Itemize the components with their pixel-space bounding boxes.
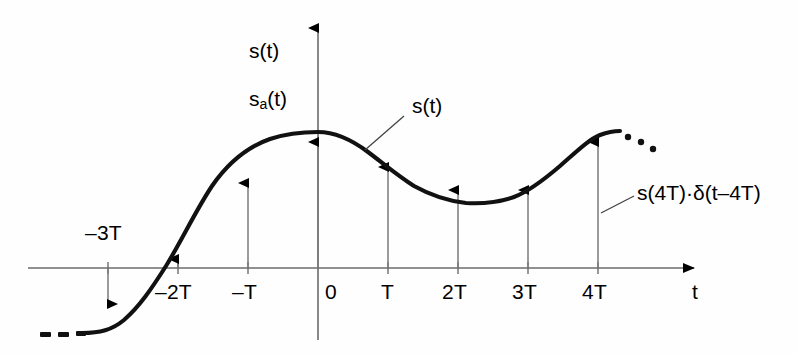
- sampling-figure: s(t) sa(t) s(t) s(4T)·δ(t–4T) –3T –2T –T…: [0, 0, 798, 354]
- left-ellipsis-dots: [40, 331, 86, 337]
- y-axis-label-secondary-base: s: [249, 87, 260, 110]
- impulse-annotation-label: s(4T)·δ(t–4T): [637, 182, 761, 203]
- y-axis-label-primary: s(t): [249, 40, 279, 61]
- y-axis-label-secondary-tail: (t): [267, 87, 287, 110]
- tick-label--2T: –2T: [155, 281, 192, 302]
- annotation-leaders: [365, 116, 634, 213]
- x-axis-label: t: [692, 281, 698, 302]
- tick-label-0: 0: [325, 281, 337, 302]
- tick-label-4T: 4T: [582, 281, 607, 302]
- tick-label--3T: –3T: [85, 222, 122, 243]
- y-axis-label-secondary: sa(t): [249, 88, 287, 111]
- signal-sampling-plot: [0, 0, 798, 354]
- tick-label--T: –T: [232, 281, 257, 302]
- leader-impulse-label: [601, 196, 634, 213]
- tick-label-T: T: [381, 281, 394, 302]
- tick-label-3T: 3T: [512, 281, 537, 302]
- right-ellipsis-dots: [625, 134, 656, 152]
- leader-curve-label: [365, 116, 404, 150]
- curve-annotation-label: s(t): [412, 95, 442, 116]
- tick-label-2T: 2T: [442, 281, 467, 302]
